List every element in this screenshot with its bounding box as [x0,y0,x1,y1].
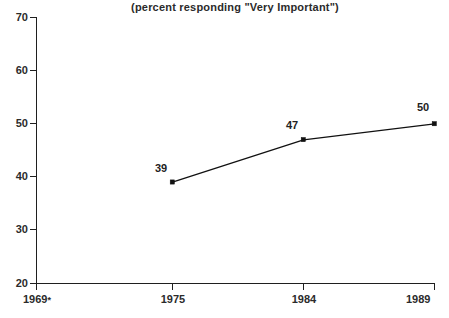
y-tick-label-50: 50 [0,117,28,129]
data-label-1989: 50 [417,101,429,113]
x-tick-label-1975: 1975 [144,293,202,305]
y-tick-label-70: 70 [0,11,28,23]
x-tick-label-1969: 1969* [8,293,66,305]
plot-area [0,0,449,318]
data-label-1984: 47 [286,119,298,131]
x-tick-label-1969-text: 1969 [23,293,47,305]
x-tick-label-1984: 1984 [275,293,333,305]
data-point-1975 [170,180,174,184]
y-tick-label-20: 20 [0,277,28,289]
data-point-1984 [301,138,305,142]
footnote-marker: * [47,295,51,305]
chart-page: (percent responding "Very Important") 70… [0,0,449,318]
data-series-line [173,124,435,182]
y-tick-label-60: 60 [0,64,28,76]
data-point-1989 [432,122,436,126]
data-label-1975: 39 [155,162,167,174]
x-tick-label-1989: 1989 [406,293,448,305]
y-tick-label-40: 40 [0,170,28,182]
y-tick-label-30: 30 [0,223,28,235]
